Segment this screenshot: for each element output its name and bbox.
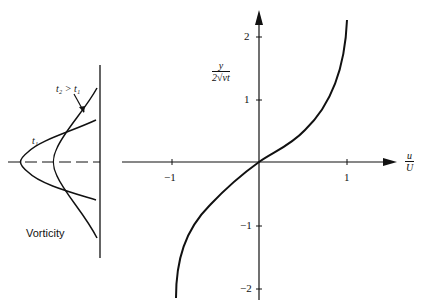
- y-tick-label-1: 1: [244, 94, 250, 105]
- vorticity-curve-t1: [21, 120, 97, 200]
- label-t1: t₁: [32, 136, 38, 146]
- y-tick-label-2: 2: [244, 31, 250, 42]
- x-axis-label: u U: [405, 150, 414, 173]
- y-label-numerator: y: [212, 60, 230, 72]
- label-t2: t₂ > t₁: [56, 84, 80, 94]
- x-label-denominator: U: [406, 162, 413, 173]
- y-tick-label-neg2: −2: [240, 283, 252, 294]
- vorticity-caption: Vorticity: [26, 228, 65, 239]
- vorticity-curve-t2: [53, 88, 97, 238]
- y-axis-arrowhead: [255, 10, 263, 25]
- y-axis-label: y 2√νt: [212, 60, 230, 83]
- x-label-numerator: u: [405, 150, 414, 162]
- diagram-canvas: [0, 0, 424, 307]
- y-tick-label-neg1: −1: [240, 220, 252, 231]
- velocity-profile-curve: [176, 20, 347, 298]
- x-tick-label-neg1: −1: [164, 172, 176, 183]
- x-axis-arrowhead: [383, 158, 397, 166]
- y-label-denominator: 2√νt: [212, 72, 230, 83]
- x-tick-label-1: 1: [344, 172, 350, 183]
